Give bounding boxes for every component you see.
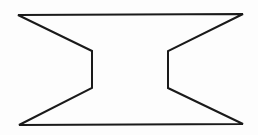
diagram-canvas <box>0 0 258 135</box>
diagram-svg <box>0 0 258 135</box>
hourglass-polygon <box>18 14 243 125</box>
